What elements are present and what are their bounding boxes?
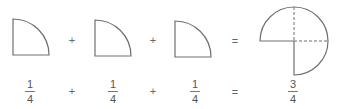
quarter-circle-2 (95, 20, 131, 56)
fraction-1: 1 4 (26, 79, 34, 105)
fraction-denominator: 4 (191, 92, 199, 105)
fraction-3: 1 4 (191, 79, 199, 105)
quarter-circle-3 (175, 21, 211, 57)
fraction-denominator: 4 (289, 92, 297, 105)
plus-operator-fractions-1: + (69, 85, 75, 97)
equals-operator-shapes: = (232, 35, 238, 47)
fraction-2: 1 4 (109, 79, 117, 105)
fraction-numerator: 1 (109, 79, 117, 91)
fraction-numerator: 3 (289, 79, 297, 91)
fraction-numerator: 1 (191, 79, 199, 91)
fraction-result: 3 4 (289, 79, 297, 105)
fraction-numerator: 1 (26, 79, 34, 91)
fraction-denominator: 4 (109, 92, 117, 105)
fraction-denominator: 4 (26, 92, 34, 105)
plus-operator-shapes-2: + (150, 34, 156, 46)
equals-operator-fractions: = (232, 86, 238, 98)
plus-operator-shapes-1: + (69, 34, 75, 46)
plus-operator-fractions-2: + (150, 85, 156, 97)
quarter-circle-1 (13, 19, 49, 55)
